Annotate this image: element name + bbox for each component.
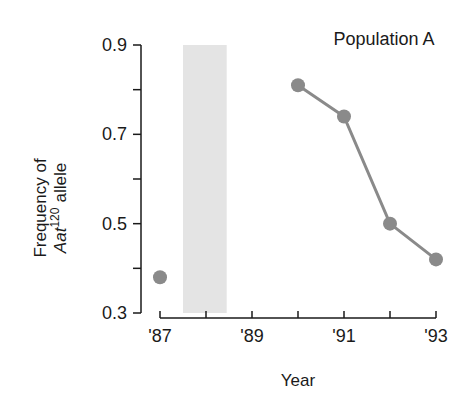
x-tick-label: '93 [424,326,447,346]
x-axis: '87'89'91'93 [148,311,447,346]
data-point [383,217,397,231]
x-tick-label: '91 [332,326,355,346]
shaded-band [183,45,227,313]
y-tick-label: 0.3 [102,303,127,323]
data-point [337,109,351,123]
y-axis: 0.30.50.70.9 [102,35,141,323]
series-line [298,85,436,259]
chart-title: Population A [333,29,434,49]
allele-label: allele [51,163,70,203]
data-point [153,270,167,284]
y-tick-label: 0.7 [102,124,127,144]
y-tick-label: 0.9 [102,35,127,55]
gene-name: Aat [51,226,70,254]
x-tick-label: '89 [240,326,263,346]
data-point [291,78,305,92]
gene-superscript: 120 [48,207,62,227]
shaded-region [183,45,227,313]
y-axis-title: Frequency of Aat120allele [31,158,70,257]
x-axis-title: Year [281,371,316,390]
y-tick-label: 0.5 [102,214,127,234]
data-point [429,252,443,266]
chart: 0.30.50.70.9 '87'89'91'93 Population A Y… [0,0,475,407]
y-axis-title-line2: Aat120allele [48,163,70,254]
x-tick-label: '87 [148,326,171,346]
